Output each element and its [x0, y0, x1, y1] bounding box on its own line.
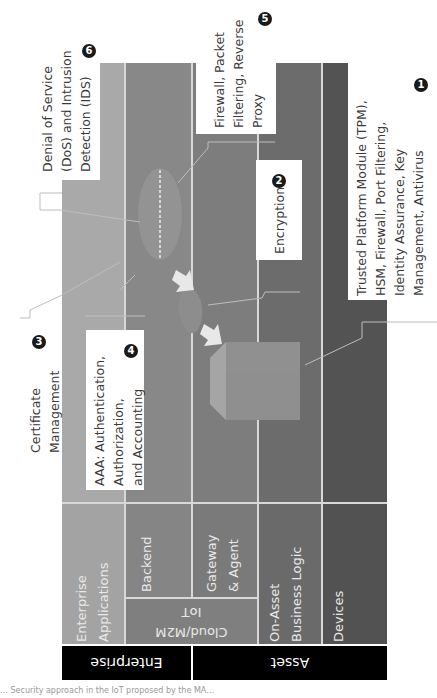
gateway-blob-icon [179, 288, 203, 333]
callout-text: Trusted Platform Module (TPM), HSM, Fire… [352, 100, 428, 296]
callout-4-aaa: AAA: Authentication, Authorization, and … [86, 330, 144, 490]
connector-line [305, 322, 437, 365]
badge-number-6: 6 [82, 44, 96, 58]
badge-number-2: 2 [272, 174, 286, 188]
callout-line: Proxy [248, 20, 267, 128]
callout-line: Encryption [270, 187, 289, 254]
callout-2-encryption: Encryption 2 [256, 160, 302, 260]
callout-line: and Accounting [128, 356, 147, 486]
callout-line: (DoS) and Intrusion [57, 50, 76, 172]
callout-1-tpm: Trusted Platform Module (TPM), HSM, Fire… [348, 60, 437, 300]
callout-line: HSM, Firewall, Port Filtering, [371, 100, 390, 296]
callout-line: Filtering, Reverse [229, 20, 248, 128]
callout-line: Management, Antivirus [409, 100, 428, 296]
connector-line [40, 193, 140, 222]
callout-5-firewall: Firewall, Packet Filtering, Reverse Prox… [196, 0, 276, 134]
callout-6-dos-ids: Denial of Service (DoS) and Intrusion De… [30, 0, 100, 180]
arrow-up-icon [200, 324, 222, 346]
connector-line [20, 262, 120, 318]
connector-line [120, 275, 135, 290]
badge-number-1: 1 [414, 78, 428, 92]
callout-line: Denial of Service [38, 50, 57, 172]
callout-line: Certificate [26, 371, 45, 453]
arrow-up-icon [172, 270, 194, 292]
callout-3-certificate: Certificate Management 3 [20, 325, 62, 455]
callout-text: Certificate Management [26, 371, 64, 453]
callout-line: AAA: Authentication, [90, 356, 109, 486]
figure-caption: … Security approach in the IoT proposed … [0, 686, 214, 695]
callout-line: Firewall, Packet [210, 20, 229, 128]
callout-line: Trusted Platform Module (TPM), [352, 100, 371, 296]
callout-line: Management [45, 371, 64, 453]
badge-number-3: 3 [32, 335, 46, 349]
badge-number-4: 4 [124, 344, 138, 358]
callout-line: Identity Assurance, Key [390, 100, 409, 296]
callout-text: Encryption [270, 187, 289, 254]
connector-line [208, 292, 300, 305]
callout-text: Firewall, Packet Filtering, Reverse Prox… [210, 20, 267, 128]
callout-text: AAA: Authentication, Authorization, and … [90, 356, 147, 486]
callout-text: Denial of Service (DoS) and Intrusion De… [38, 50, 95, 172]
callout-line: Detection (IDS) [76, 50, 95, 172]
callout-line: Authorization, [109, 356, 128, 486]
badge-number-5: 5 [258, 12, 272, 26]
